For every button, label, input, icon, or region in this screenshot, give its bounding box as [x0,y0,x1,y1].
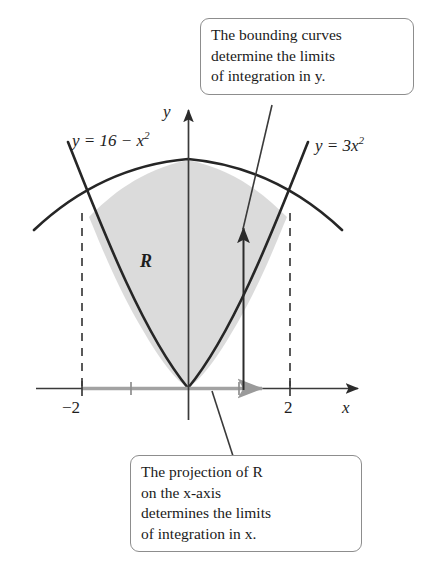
callout-bottom-leader [212,391,233,456]
label-y-axis: y [163,102,171,122]
label-curve-upper: y = 16 − x2 [72,131,150,151]
label-curve-upper-exponent: 2 [144,129,150,141]
label-curve-lower-exponent: 2 [359,134,365,146]
label-x-tick-plus-2: 2 [284,398,293,418]
callout-bounding-curves: The bounding curves determine the limits… [200,18,414,95]
callout-projection: The projection of R on the x-axis determ… [130,455,362,552]
label-x-axis: x [342,398,350,418]
label-curve-lower: y = 3x2 [315,136,364,156]
label-x-tick-minus-2: −2 [62,398,80,418]
figure-canvas: The bounding curves determine the limits… [0,0,423,562]
label-curve-upper-text: y = 16 − x [72,131,144,150]
label-curve-lower-text: y = 3x [315,136,359,155]
label-region-R: R [140,251,152,272]
